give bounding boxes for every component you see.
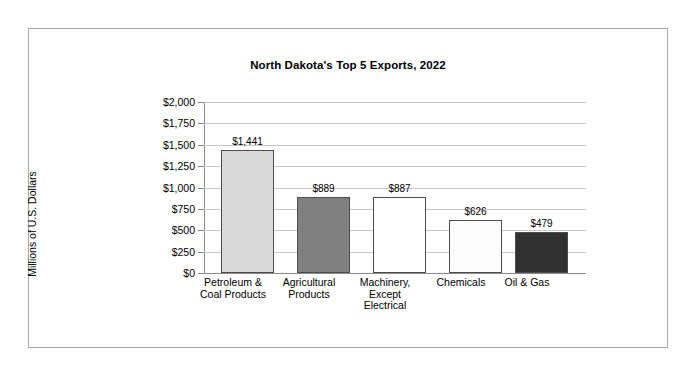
y-axis-title: Millions of U.S. Dollars	[26, 129, 38, 319]
y-tick-label-1500: $1,500	[135, 140, 195, 150]
bar-value-petroleum-coal-products: $1,441	[221, 136, 274, 147]
gridline-2000	[204, 102, 586, 103]
y-tick-label-2000: $2,000	[135, 97, 195, 107]
chart-frame: North Dakota's Top 5 Exports, 2022 Milli…	[28, 28, 668, 348]
bar-chemicals[interactable]	[449, 220, 502, 274]
chart-title: North Dakota's Top 5 Exports, 2022	[29, 59, 667, 71]
bar-value-chemicals: $626	[449, 206, 502, 217]
y-tick-label-0: $0	[135, 268, 195, 278]
category-label-line: Agricultural	[265, 277, 353, 289]
y-axis-tick-labels: $2,000 $1,750 $1,500 $1,250 $1,000 $750 …	[131, 29, 195, 347]
category-label-line: Oil & Gas	[483, 277, 571, 289]
category-label-line: Machinery,	[341, 277, 429, 289]
category-label-line: Electrical	[341, 300, 429, 312]
y-tick-label-750: $750	[135, 204, 195, 214]
gridline-baseline-0	[204, 273, 586, 274]
bar-oil-gas[interactable]	[515, 232, 568, 273]
category-label-line: Products	[265, 289, 353, 301]
y-tick-label-1000: $1,000	[135, 183, 195, 193]
category-label-line: Petroleum &	[189, 277, 277, 289]
category-label-oil-gas: Oil & Gas	[483, 277, 571, 289]
plot-area: $1,441 $889 $887 $626 $479	[204, 102, 586, 273]
category-label-agricultural-products: Agricultural Products	[265, 277, 353, 300]
bar-value-agricultural-products: $889	[297, 183, 350, 194]
bar-value-oil-gas: $479	[515, 218, 568, 229]
y-tick-label-500: $500	[135, 225, 195, 235]
bar-value-machinery-except-electrical: $887	[373, 183, 426, 194]
bar-petroleum-coal-products[interactable]	[221, 150, 274, 273]
y-tick-label-250: $250	[135, 247, 195, 257]
category-label-line: Coal Products	[189, 289, 277, 301]
gridline-1750	[204, 123, 586, 124]
bar-machinery-except-electrical[interactable]	[373, 197, 426, 273]
y-tick-label-1250: $1,250	[135, 161, 195, 171]
category-label-petroleum-coal-products: Petroleum & Coal Products	[189, 277, 277, 300]
category-label-machinery-except-electrical: Machinery, Except Electrical	[341, 277, 429, 312]
y-tick-label-1750: $1,750	[135, 118, 195, 128]
bar-agricultural-products[interactable]	[297, 197, 350, 273]
